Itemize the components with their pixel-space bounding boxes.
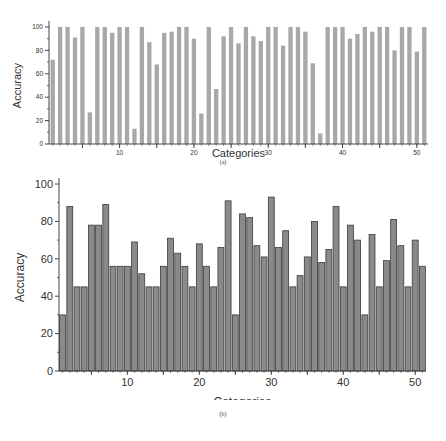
y-tick-label: 0 [47, 365, 53, 377]
x-tick-label: 30 [265, 376, 277, 388]
bar [268, 197, 274, 371]
bar [88, 225, 94, 371]
bar [415, 52, 419, 144]
x-tick-label: 10 [116, 149, 124, 156]
y-tick-label: 0 [39, 140, 43, 147]
bar [225, 201, 231, 371]
bar [422, 27, 426, 144]
bar [211, 287, 217, 371]
x-tick-label: 20 [190, 149, 198, 156]
y-tick-label: 100 [35, 178, 53, 190]
x-tick-label: 30 [265, 149, 273, 156]
bar [251, 36, 255, 144]
bar [247, 218, 253, 371]
bar [355, 34, 359, 144]
bar [147, 42, 151, 144]
bar [340, 287, 346, 371]
caption-b: (b) [0, 411, 446, 417]
bar [318, 133, 322, 144]
x-tick-label: 40 [337, 376, 349, 388]
bar [160, 266, 166, 371]
bar [405, 287, 411, 371]
bar [214, 89, 218, 144]
bar [261, 257, 267, 371]
x-tick-label: 10 [121, 376, 133, 388]
y-tick-label: 40 [36, 93, 44, 100]
bar [155, 64, 159, 144]
bar [207, 27, 211, 144]
bar [369, 234, 375, 371]
y-axis-label: Accuracy [11, 62, 23, 108]
bar [60, 315, 66, 371]
bar [266, 27, 270, 144]
bar [312, 221, 318, 371]
bar [363, 27, 367, 144]
chart-b: 0204060801001020304050CategoriesAccuracy [0, 170, 446, 400]
bar [182, 266, 188, 371]
bar [319, 263, 325, 371]
bar [196, 244, 202, 371]
bar [125, 27, 129, 144]
bar [304, 257, 310, 371]
bar [259, 41, 263, 144]
bar [74, 287, 80, 371]
bar [192, 39, 196, 144]
bar [362, 315, 368, 371]
bar [184, 27, 188, 144]
bar [348, 39, 352, 144]
y-tick-label: 100 [32, 23, 43, 30]
bar [419, 266, 425, 371]
x-axis-label: Categories [213, 395, 271, 400]
bar [296, 27, 300, 144]
bar [232, 315, 238, 371]
bar [311, 63, 315, 144]
bar [218, 248, 224, 371]
bar [276, 248, 282, 371]
bar [355, 240, 361, 371]
bar [333, 206, 339, 371]
bar [80, 27, 84, 144]
bar [177, 27, 181, 144]
bar [303, 32, 307, 144]
bar [400, 27, 404, 144]
bar [162, 33, 166, 144]
bar [392, 50, 396, 144]
bar [132, 129, 136, 144]
bar [221, 36, 225, 144]
bar [96, 225, 102, 371]
bar [117, 266, 123, 371]
bar [67, 206, 73, 371]
bar [175, 253, 181, 371]
chart-a: 0204060801001020304050CategoriesAccuracy [0, 0, 446, 160]
bar [326, 249, 332, 371]
bar [169, 32, 173, 144]
y-tick-label: 40 [41, 290, 53, 302]
bar [236, 43, 240, 144]
y-tick-label: 20 [41, 327, 53, 339]
bar [110, 266, 116, 371]
bar [189, 287, 195, 371]
bar [88, 112, 92, 144]
caption-a: (a) [0, 159, 446, 165]
bar [132, 242, 138, 371]
bar [139, 274, 145, 371]
bars [51, 27, 427, 144]
bar [229, 27, 233, 144]
bar [51, 60, 55, 144]
bar [347, 225, 353, 371]
bar-chart-a: 0204060801001020304050CategoriesAccuracy [0, 0, 446, 160]
bar [58, 27, 62, 144]
y-tick-label: 60 [41, 253, 53, 265]
bar [391, 220, 397, 371]
bar [124, 266, 130, 371]
y-tick-label: 80 [41, 215, 53, 227]
bar [153, 287, 159, 371]
x-tick-label: 40 [339, 149, 347, 156]
bar [407, 27, 411, 144]
bar [103, 205, 109, 371]
bar [376, 287, 382, 371]
bar [110, 33, 114, 144]
bars [60, 197, 426, 371]
y-tick-label: 20 [36, 117, 44, 124]
bar [95, 27, 99, 144]
